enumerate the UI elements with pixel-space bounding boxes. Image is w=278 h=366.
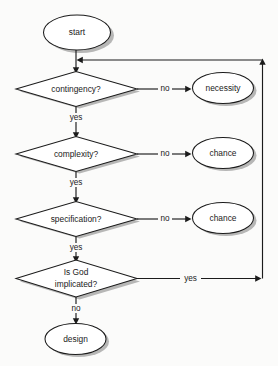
node-is-god-implicated-label-line1: Is God: [64, 267, 89, 277]
edge-label-specification-yes: yes: [70, 243, 83, 252]
edge-label-complexity-no: no: [160, 149, 170, 158]
edge-feedback-horizontal-arrowhead: [77, 57, 83, 63]
flowchart-canvas: start contingency? necessity complexity?…: [0, 0, 278, 366]
edge-label-complexity-yes: yes: [70, 178, 83, 187]
node-contingency-label: contingency?: [51, 84, 101, 94]
edge-specification-no-arrowhead: [185, 216, 191, 222]
node-is-god-implicated-label-line2: implicated?: [55, 279, 98, 289]
edge-complexity-no-arrowhead: [185, 151, 191, 157]
edge-label-isgod-no: no: [71, 304, 81, 313]
node-chance-1-label: chance: [209, 148, 236, 158]
edge-label-isgod-yes: yes: [184, 274, 197, 283]
node-start-label: start: [69, 27, 86, 37]
node-necessity-label: necessity: [206, 83, 242, 93]
edge-isgod-yes-arrowhead: [255, 275, 261, 281]
flowchart-svg: start contingency? necessity complexity?…: [0, 0, 278, 366]
shape-shadows: [20, 18, 257, 357]
node-design-label: design: [63, 334, 88, 344]
shapes: [16, 15, 254, 355]
edge-label-specification-no: no: [160, 214, 170, 223]
node-chance-2-label: chance: [209, 213, 236, 223]
node-complexity-label: complexity?: [54, 149, 99, 159]
node-specification-label: specification?: [51, 214, 102, 224]
edge-label-contingency-yes: yes: [70, 113, 83, 122]
edge-contingency-no-arrowhead: [185, 86, 191, 92]
edge-label-contingency-no: no: [160, 84, 170, 93]
